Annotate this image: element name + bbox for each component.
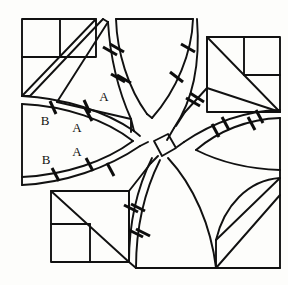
- label-a-lower: A: [72, 144, 82, 159]
- center-square: [154, 134, 176, 156]
- upper-right-band: [167, 19, 198, 140]
- label-b-lower: B: [42, 152, 51, 167]
- tick-mark: [248, 117, 255, 130]
- dissection-svg: A B A A B: [0, 0, 288, 285]
- bottom-left-curved-band: [129, 158, 152, 268]
- label-b-upper: B: [41, 113, 50, 128]
- right-arrowhead: [196, 118, 280, 170]
- bottom-right-fan: [216, 178, 280, 268]
- dissection-figure: A B A A B: [0, 0, 288, 285]
- label-a-upper: A: [72, 120, 82, 135]
- tick-mark: [212, 124, 219, 137]
- bottom-wedge: [136, 158, 216, 268]
- tick-mark: [107, 163, 114, 176]
- bottom-left-square: [51, 191, 129, 262]
- top-wedge: [116, 19, 193, 118]
- label-a-top: A: [99, 89, 109, 104]
